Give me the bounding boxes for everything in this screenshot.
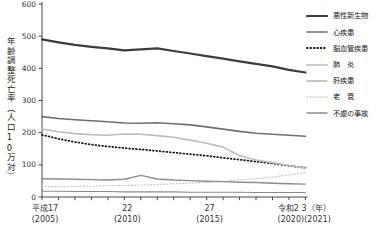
legend-item: 老 衰 — [306, 89, 388, 105]
legend-label: 悪性新生物 — [333, 12, 368, 19]
x-tick-label-era: 令和2 3（年） — [278, 203, 331, 213]
y-tick-label: 400 — [22, 64, 37, 73]
legend-item: 肝疾患 — [306, 73, 388, 89]
y-tick-label: 0 — [31, 193, 36, 202]
x-tick-label-era: 平成17 — [32, 203, 58, 213]
legend-line-swatch — [306, 45, 328, 51]
legend-item: 脳血管疾患 — [306, 40, 388, 56]
legend-item: 悪性新生物 — [306, 8, 388, 24]
x-tick-label-western: (2010) — [114, 215, 141, 224]
x-tick-label-western: (2015) — [196, 215, 223, 224]
legend-item: 不慮の事故 — [306, 105, 388, 121]
x-tick-label-era: 22 — [122, 204, 132, 213]
x-tick-label-western: (2005) — [32, 215, 59, 224]
legend-item: 肺 炎 — [306, 57, 388, 73]
legend-label: 脳血管疾患 — [333, 45, 368, 52]
legend-item: 心疾患 — [306, 24, 388, 40]
y-tick-label: 600 — [22, 0, 37, 9]
legend: 悪性新生物心疾患脳血管疾患肺 炎肝疾患老 衰不慮の事故 — [306, 8, 388, 121]
legend-line-swatch — [306, 62, 328, 68]
legend-line-swatch — [306, 29, 328, 35]
legend-label: 老 衰 — [333, 93, 354, 100]
x-tick-label-era: 27 — [205, 204, 215, 213]
legend-label: 心疾患 — [333, 29, 354, 36]
series-line — [42, 191, 305, 192]
series-line — [42, 135, 305, 168]
y-tick-label: 500 — [22, 32, 37, 41]
series-line — [42, 39, 305, 72]
mortality-rate-chart-figure: 年齢調整死亡率（人口10万対） 0100200300400500600平成17(… — [0, 0, 389, 237]
series-line — [42, 129, 305, 168]
legend-label: 不慮の事故 — [333, 110, 368, 117]
legend-label: 肺 炎 — [333, 61, 354, 68]
y-tick-label: 300 — [22, 96, 37, 105]
legend-line-swatch — [306, 13, 328, 19]
y-tick-label: 100 — [22, 160, 37, 169]
x-tick-label-western: (2020)(2021) — [278, 215, 331, 224]
legend-line-swatch — [306, 94, 328, 100]
legend-label: 肝疾患 — [333, 77, 354, 84]
legend-line-swatch — [306, 78, 328, 84]
y-tick-label: 200 — [22, 128, 37, 137]
series-line — [42, 175, 305, 184]
legend-line-swatch — [306, 110, 328, 116]
